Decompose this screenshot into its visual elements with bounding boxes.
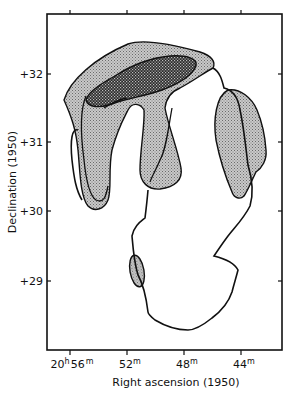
x-axis-title: Right ascension (1950) — [112, 376, 239, 389]
y-tick-31: +31 — [20, 136, 43, 149]
x-tick-44: 44m — [233, 357, 255, 371]
x-tick-48: 48m — [176, 357, 198, 371]
y-tick-labels: +32 +31 +30 +29 — [20, 68, 43, 288]
y-tick-30: +30 — [20, 205, 43, 218]
x-tick-labels: 20h56m 52m 48m 44m — [51, 357, 256, 371]
y-axis-title: Declination (1950) — [6, 131, 19, 233]
y-tick-29: +29 — [20, 275, 43, 288]
sky-map-diagram: +32 +31 +30 +29 Declination (1950) 20h56… — [0, 0, 293, 397]
y-tick-32: +32 — [20, 68, 43, 81]
x-tick-52: 52m — [119, 357, 141, 371]
x-tick-56: 20h56m — [51, 357, 94, 371]
